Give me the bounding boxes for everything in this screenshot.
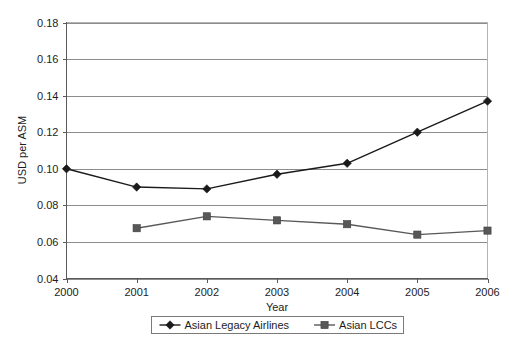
y-axis-title: USD per ASM xyxy=(16,116,28,184)
legend-label: Asian Legacy Airlines xyxy=(185,319,290,331)
x-tick-label: 2005 xyxy=(405,286,429,298)
chart-legend: Asian Legacy AirlinesAsian LCCs xyxy=(152,316,404,333)
square-marker-icon xyxy=(321,321,328,328)
y-tick-label: 0.18 xyxy=(37,17,58,29)
line-chart: 0.040.060.080.100.120.140.160.18 2000200… xyxy=(0,0,509,352)
x-tick-label: 2004 xyxy=(335,286,359,298)
data-point-square xyxy=(484,227,491,234)
y-tick-label: 0.16 xyxy=(37,53,58,65)
y-tick-label: 0.04 xyxy=(37,273,58,285)
x-tick-label: 2006 xyxy=(475,286,499,298)
y-tick-label: 0.08 xyxy=(37,199,58,211)
x-tick-label: 2002 xyxy=(195,286,219,298)
data-point-square xyxy=(133,225,140,232)
y-tick-label: 0.14 xyxy=(37,90,58,102)
chart-background xyxy=(0,0,509,352)
data-point-square xyxy=(273,217,280,224)
data-point-square xyxy=(344,221,351,228)
data-point-square xyxy=(414,231,421,238)
x-tick-label: 2003 xyxy=(265,286,289,298)
data-point-square xyxy=(203,213,210,220)
y-tick-label: 0.10 xyxy=(37,163,58,175)
legend-label: Asian LCCs xyxy=(339,319,398,331)
x-axis-title: Year xyxy=(266,301,289,313)
x-tick-label: 2000 xyxy=(54,286,78,298)
x-tick-label: 2001 xyxy=(124,286,148,298)
y-tick-label: 0.06 xyxy=(37,236,58,248)
y-tick-label: 0.12 xyxy=(37,126,58,138)
chart-container: 0.040.060.080.100.120.140.160.18 2000200… xyxy=(0,0,509,352)
